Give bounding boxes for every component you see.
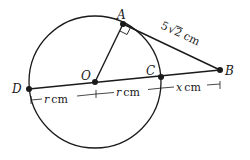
label-o: O xyxy=(81,69,91,83)
point-c xyxy=(158,74,164,80)
point-d xyxy=(26,86,32,92)
point-b xyxy=(217,67,223,73)
segment-oa xyxy=(95,24,123,82)
label-oc: rcm xyxy=(116,86,140,99)
label-d: D xyxy=(11,82,22,96)
label-c: C xyxy=(146,64,155,78)
label-a: A xyxy=(116,8,126,22)
label-b: B xyxy=(224,64,234,78)
geometry-diagram: A B C O D 5√2cm rcm rcm xcm xyxy=(0,0,250,160)
label-do: rcm xyxy=(44,93,68,106)
label-cb: xcm xyxy=(176,81,201,94)
point-o xyxy=(92,79,98,85)
